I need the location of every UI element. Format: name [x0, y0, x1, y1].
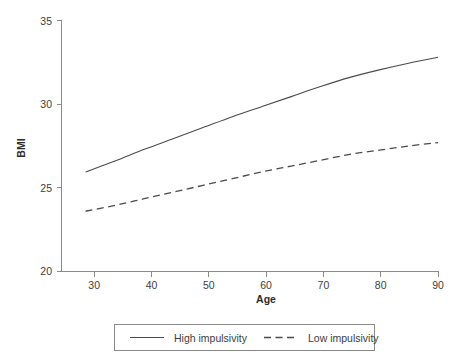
x-axis-title: Age: [256, 293, 276, 305]
series-line-low-impulsivity: [86, 143, 438, 212]
y-tick-label-25: 25: [40, 182, 52, 194]
x-tick-label-50: 50: [203, 279, 215, 291]
x-axis-ticks: [94, 272, 438, 277]
y-axis-title: BMI: [15, 138, 27, 157]
y-tick-label-30: 30: [40, 98, 52, 110]
legend-label-low-impulsivity: Low impulsivity: [308, 332, 379, 344]
x-tick-label-40: 40: [146, 279, 158, 291]
line-chart: 35 30 25 20 30 40 50 60 70 80 90 Age BMI: [0, 0, 464, 361]
y-tick-label-35: 35: [40, 15, 52, 27]
x-tick-label-70: 70: [318, 279, 330, 291]
chart-legend: High impulsivity Low impulsivity: [115, 325, 380, 351]
x-tick-label-30: 30: [88, 279, 100, 291]
x-tick-label-80: 80: [375, 279, 387, 291]
series-line-high-impulsivity: [86, 57, 438, 172]
x-tick-label-90: 90: [432, 279, 444, 291]
chart-figure: 35 30 25 20 30 40 50 60 70 80 90 Age BMI: [0, 0, 464, 361]
x-axis-tick-labels: 30 40 50 60 70 80 90: [88, 279, 444, 291]
x-tick-label-60: 60: [260, 279, 272, 291]
y-tick-label-20: 20: [40, 265, 52, 277]
y-axis-ticks: [57, 21, 62, 272]
y-axis-tick-labels: 35 30 25 20: [40, 15, 52, 278]
legend-label-high-impulsivity: High impulsivity: [174, 332, 248, 344]
axis-lines: [62, 21, 439, 272]
